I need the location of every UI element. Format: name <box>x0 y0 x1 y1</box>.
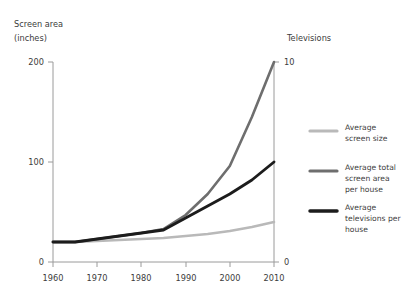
x-axis-ticks <box>53 262 274 267</box>
x-tick-label-2010: 2010 <box>264 273 285 283</box>
x-tick-label-1990: 1990 <box>176 273 197 283</box>
legend: Average screen size Average total screen… <box>310 123 401 234</box>
x-tick-label-1980: 1980 <box>131 273 152 283</box>
x-tick-label-1970: 1970 <box>87 273 108 283</box>
right-tick-label-0: 0 <box>284 257 289 267</box>
plot-series-group <box>53 62 274 242</box>
legend-label-0-line1: Average <box>345 123 377 132</box>
series-line-0 <box>53 222 274 242</box>
series-line-1 <box>53 62 274 242</box>
left-tick-label-200: 200 <box>28 57 44 67</box>
left-axis-ticks <box>48 62 53 262</box>
legend-label-1-line3: per house <box>345 185 383 194</box>
right-tick-label-10: 10 <box>284 57 294 67</box>
left-axis-title-line2: (inches) <box>14 33 47 43</box>
legend-label-0-line2: screen size <box>345 134 388 143</box>
x-tick-label-2000: 2000 <box>220 273 241 283</box>
legend-label-2-line1: Average <box>345 203 377 212</box>
legend-label-1-line2: screen area <box>345 174 390 183</box>
x-tick-label-1960: 1960 <box>43 273 64 283</box>
chart-figure: Screen area (inches) Televisions 200 100… <box>0 0 412 301</box>
legend-label-1-line1: Average total <box>345 163 396 172</box>
legend-label-2-line2: televisions per <box>345 214 401 223</box>
legend-label-2-line3: house <box>345 225 368 234</box>
left-tick-label-0: 0 <box>39 257 44 267</box>
left-tick-label-100: 100 <box>28 157 44 167</box>
left-axis-title-line1: Screen area <box>14 19 63 29</box>
right-axis-title: Televisions <box>286 33 331 43</box>
